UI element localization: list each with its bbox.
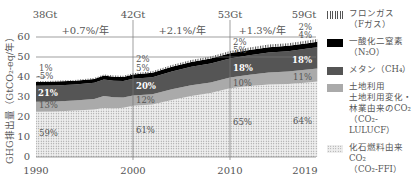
share-2000-lulucf: 12% (136, 95, 155, 105)
share-1990-n2o: -5% (37, 71, 53, 81)
total-2000: 42Gt (121, 9, 146, 20)
legend-item-n2o: 一酸化二窒素 （N₂O） (327, 36, 416, 58)
y-tick-20: 20 (17, 111, 30, 122)
share-1990-ffi: 59% (39, 128, 58, 138)
legend-item-ch4: メタン（CH₄） (327, 64, 416, 75)
share-2000-n2o: 5% (136, 63, 150, 73)
y-tick-60: 60 (17, 31, 30, 42)
lulucf-swatch-icon (327, 84, 343, 92)
y-axis: 0 10 20 30 40 50 60 GHG排出量（GtCO₂-eq/年） (4, 31, 30, 164)
ffi-swatch-icon (327, 145, 343, 153)
share-2019-ch4: 18% (292, 55, 312, 65)
ch4-swatch-icon (327, 67, 343, 75)
legend-item-lulucf: 土地利用 土地利用変化・ 林業由来のCO₂ （CO₂-LULUCF） (327, 81, 416, 136)
legend-label-lulucf: 土地利用 土地利用変化・ 林業由来のCO₂ （CO₂-LULUCF） (349, 81, 416, 136)
legend-label-ffi: 化石燃料由来CO₂ （CO₂-FFI） (349, 142, 416, 175)
share-2000-ch4: 20% (136, 81, 156, 91)
share-2010-ch4: 18% (233, 63, 253, 73)
legend-item-ffi: 化石燃料由来CO₂ （CO₂-FFI） (327, 142, 416, 175)
x-axis: 1990 2000 2010 2019 (23, 165, 317, 176)
share-1990-ch4: 21% (38, 88, 58, 98)
total-2019: 59Gt (292, 9, 317, 20)
legend-label-n2o: 一酸化二窒素 （N₂O） (349, 36, 403, 58)
x-tick-2000: 2000 (120, 165, 145, 176)
growth-rate-2010s: +1.3%/年 (238, 24, 285, 36)
share-1990-lulucf: 13% (39, 100, 58, 110)
y-tick-50: 50 (17, 51, 30, 62)
share-2000-ffi: 61% (136, 125, 155, 135)
legend-label-fgas: フロンガス （Fガス） (349, 8, 394, 30)
n2o-swatch-icon (327, 39, 343, 47)
x-tick-2019: 2019 (292, 165, 317, 176)
total-2010: 53Gt (218, 9, 243, 20)
y-axis-label: GHG排出量（GtCO₂-eq/年） (4, 32, 15, 164)
legend-label-ch4: メタン（CH₄） (349, 64, 411, 75)
growth-rate-1990s: +0.7%/年 (61, 24, 108, 36)
y-tick-10: 10 (17, 131, 30, 142)
share-2010-lulucf: 10% (233, 78, 252, 88)
x-tick-2010: 2010 (217, 165, 242, 176)
x-tick-1990: 1990 (23, 165, 48, 176)
legend-item-fgas: フロンガス （Fガス） (327, 8, 416, 30)
fgas-swatch-icon (327, 11, 343, 19)
share-2010-n2o: 5% (233, 45, 247, 55)
legend: フロンガス （Fガス） 一酸化二窒素 （N₂O） メタン（CH₄） 土地利用 土… (327, 8, 416, 181)
growth-rate-2000s: +2.1%/年 (158, 24, 205, 36)
total-1990: 38Gt (33, 9, 58, 20)
share-2010-ffi: 65% (233, 117, 252, 127)
share-2019-ffi: 64% (293, 116, 312, 126)
y-tick-0: 0 (24, 151, 30, 162)
share-2019-n2o: 4% (299, 30, 313, 40)
share-2019-lulucf: 11% (293, 72, 312, 82)
y-tick-40: 40 (17, 71, 30, 82)
y-tick-30: 30 (17, 91, 30, 102)
top-annotations: 38Gt 42Gt 53Gt 59Gt +0.7%/年 +2.1%/年 +1.3… (33, 9, 317, 36)
